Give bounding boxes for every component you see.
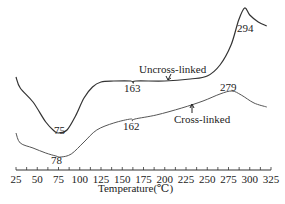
label-279: 279 bbox=[220, 81, 237, 93]
label-uncross-linked: Uncross-linked bbox=[139, 63, 207, 75]
label-163: 163 bbox=[124, 82, 141, 94]
label-294: 294 bbox=[237, 22, 254, 34]
x-tick-label: 275 bbox=[220, 173, 237, 185]
label-78: 78 bbox=[51, 154, 63, 166]
x-tick-label: 25 bbox=[11, 173, 23, 185]
label-162: 162 bbox=[123, 120, 140, 132]
x-tick-label: 225 bbox=[178, 173, 195, 185]
label-cross-linked: Cross-linked bbox=[174, 113, 231, 125]
x-tick-label: 75 bbox=[53, 173, 65, 185]
x-tick-label: 300 bbox=[242, 173, 259, 185]
x-tick-label: 50 bbox=[32, 173, 44, 185]
x-tick-label: 325 bbox=[263, 173, 280, 185]
dsc-chart: 255075100125150175200225250275300325 294… bbox=[0, 0, 285, 204]
x-axis-title: Temperature(℃) bbox=[98, 182, 173, 195]
label-75: 75 bbox=[54, 124, 66, 136]
x-tick-label: 100 bbox=[72, 173, 89, 185]
x-tick-label: 250 bbox=[199, 173, 216, 185]
